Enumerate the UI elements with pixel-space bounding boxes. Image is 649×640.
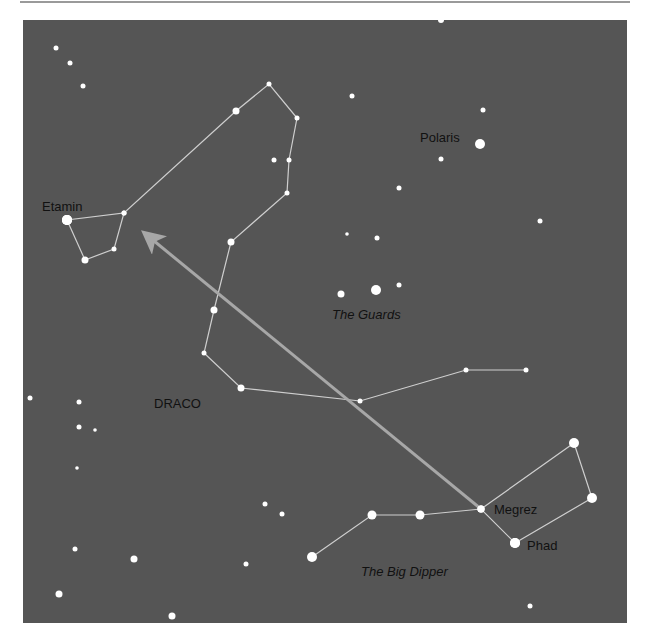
label-phad: Phad bbox=[527, 539, 557, 552]
star-icon bbox=[416, 511, 425, 520]
star-icon bbox=[285, 191, 290, 196]
star-icon bbox=[397, 283, 402, 288]
star-icon bbox=[371, 285, 381, 295]
star-icon bbox=[211, 307, 218, 314]
star-icon bbox=[81, 84, 86, 89]
star-icon bbox=[228, 239, 235, 246]
star-icon bbox=[287, 158, 292, 163]
star-etamin bbox=[62, 215, 72, 225]
star-icon bbox=[28, 396, 33, 401]
star-icon bbox=[263, 502, 268, 507]
star-icon bbox=[280, 512, 285, 517]
label-the-guards: The Guards bbox=[332, 308, 401, 321]
star-icon bbox=[345, 232, 349, 236]
star-icon bbox=[307, 552, 317, 562]
star-icon bbox=[397, 186, 402, 191]
star-icon bbox=[538, 219, 543, 224]
star-icon bbox=[77, 425, 82, 430]
star-icon bbox=[93, 428, 97, 432]
star-icon bbox=[272, 158, 277, 163]
star-icon bbox=[267, 82, 272, 87]
star-icon bbox=[169, 613, 176, 620]
label-big-dipper: The Big Dipper bbox=[361, 565, 448, 578]
star-icon bbox=[244, 562, 249, 567]
star-polaris bbox=[475, 139, 485, 149]
star-icon bbox=[295, 116, 300, 121]
star-icon bbox=[439, 157, 444, 162]
star-icon bbox=[122, 211, 127, 216]
label-draco: DRACO bbox=[154, 397, 201, 410]
star-icon bbox=[233, 108, 240, 115]
star-icon bbox=[569, 438, 579, 448]
star-icon bbox=[82, 257, 89, 264]
star-icon bbox=[56, 591, 63, 598]
star-icon bbox=[481, 108, 486, 113]
star-icon bbox=[368, 511, 377, 520]
star-icon bbox=[73, 547, 78, 552]
constellation-lines bbox=[67, 84, 592, 557]
star-icon bbox=[358, 399, 363, 404]
star-icon bbox=[54, 46, 59, 51]
star-icon bbox=[464, 368, 469, 373]
star-icon bbox=[131, 556, 138, 563]
star-icon bbox=[238, 385, 245, 392]
star-phad bbox=[510, 538, 520, 548]
label-polaris: Polaris bbox=[420, 131, 460, 144]
pointer-arrow bbox=[148, 236, 481, 509]
star-icon bbox=[375, 236, 380, 241]
star-icon bbox=[112, 247, 117, 252]
star-icon bbox=[528, 604, 533, 609]
star-icon bbox=[524, 368, 529, 373]
star-icon bbox=[587, 493, 597, 503]
star-icon bbox=[77, 400, 82, 405]
star-icon bbox=[350, 94, 355, 99]
star-megrez bbox=[478, 506, 485, 513]
star-icon bbox=[338, 291, 345, 298]
star-icon bbox=[75, 466, 79, 470]
label-etamin: Etamin bbox=[42, 200, 82, 213]
label-megrez: Megrez bbox=[494, 503, 537, 516]
star-icon bbox=[202, 351, 207, 356]
star-icon bbox=[68, 61, 73, 66]
stars bbox=[28, 17, 598, 620]
star-icon bbox=[438, 17, 444, 23]
